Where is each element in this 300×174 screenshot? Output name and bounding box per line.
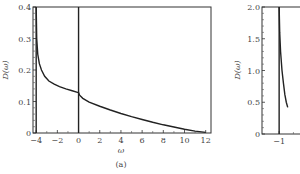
- x-tick-label: 6: [140, 136, 145, 145]
- y-tick-label: 0: [255, 130, 260, 139]
- x-tick-label: −1: [273, 137, 285, 146]
- curve-a: [36, 7, 206, 132]
- x-tick-label: 10: [179, 136, 189, 145]
- curve-b: [279, 7, 288, 107]
- x-axis-ticks-b: −10: [273, 131, 300, 146]
- x-tick-label: 8: [161, 136, 166, 145]
- x-tick-label: 2: [97, 136, 102, 145]
- y-axis-label-a: D(ω): [1, 60, 10, 80]
- figure: 00.10.20.30.4 −4−2024681012 D(ω) ω (a) 0…: [0, 0, 300, 174]
- x-tick-label: 12: [201, 136, 211, 145]
- y-tick-label: 1.5: [247, 35, 260, 44]
- vertical-lines-a: [36, 7, 78, 133]
- y-tick-label: 2.0: [247, 3, 260, 12]
- plot-frame-b: [262, 7, 300, 134]
- x-tick-label: 4: [118, 136, 123, 145]
- y-tick-label: 1.0: [247, 67, 260, 76]
- chart-panel-b: 00.51.01.52.0 −10 D(ω): [233, 3, 300, 146]
- y-tick-label: 0.4: [18, 3, 31, 12]
- chart-panel-a: 00.10.20.30.4 −4−2024681012 D(ω) ω (a): [1, 3, 211, 169]
- x-tick-label: −2: [51, 136, 63, 145]
- y-tick-label: 0.5: [247, 98, 260, 107]
- x-axis-ticks-a: −4−2024681012: [30, 130, 211, 145]
- x-tick-label: 0: [76, 136, 81, 145]
- y-tick-label: 0.2: [18, 66, 31, 75]
- panel-caption-a: (a): [115, 160, 126, 169]
- y-axis-label-b: D(ω): [233, 60, 242, 80]
- x-axis-label-a: ω: [118, 146, 125, 155]
- y-tick-label: 0.3: [18, 35, 31, 44]
- y-tick-label: 0.1: [18, 98, 31, 107]
- x-tick-label: −4: [30, 136, 42, 145]
